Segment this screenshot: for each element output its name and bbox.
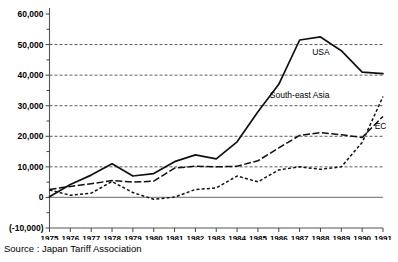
series-line-south-east-asia (50, 97, 384, 200)
x-tick-label-1978: 1978 (103, 234, 121, 240)
x-tick-label-1990: 1990 (353, 234, 371, 240)
y-tick-label-60000: 60,000 (18, 9, 44, 19)
x-tick-label-1980: 1980 (145, 234, 163, 240)
x-tick-label-1987: 1987 (291, 234, 309, 240)
y-tick-label-0: 0 (39, 192, 44, 202)
label-ec: EC (375, 121, 387, 131)
x-tick-label-1981: 1981 (166, 234, 184, 240)
line-chart: (-10,000)010,00020,00030,00040,00050,000… (0, 0, 398, 240)
y-tick-label-40000: 40,000 (18, 70, 44, 80)
y-tick-label-50000: 50,000 (18, 40, 44, 50)
x-tick-label-1975: 1975 (41, 234, 59, 240)
x-tick-label-1985: 1985 (249, 234, 267, 240)
series-line-usa (50, 37, 384, 197)
x-tick-label-1982: 1982 (187, 234, 205, 240)
source-note: Source : Japan Tariff Association (4, 243, 141, 254)
x-tick-label-1983: 1983 (207, 234, 225, 240)
y-tick-label--10000: (-10,000) (9, 223, 44, 233)
x-tick-label-1979: 1979 (124, 234, 142, 240)
x-tick-label-1977: 1977 (82, 234, 100, 240)
y-tick-label-10000: 10,000 (18, 162, 44, 172)
x-tick-label-1976: 1976 (61, 234, 79, 240)
chart-container: (-10,000)010,00020,00030,00040,00050,000… (0, 0, 398, 262)
x-tick-label-1984: 1984 (228, 234, 246, 240)
label-usa: USA (312, 47, 330, 57)
x-tick-label-1988: 1988 (312, 234, 330, 240)
series-line-ec (50, 116, 384, 189)
y-tick-label-30000: 30,000 (18, 101, 44, 111)
label-south-east-asia: South-east Asia (270, 90, 330, 100)
y-tick-label-20000: 20,000 (18, 131, 44, 141)
x-tick-label-1991: 1991 (374, 234, 392, 240)
x-tick-label-1989: 1989 (332, 234, 350, 240)
x-tick-label-1986: 1986 (270, 234, 288, 240)
